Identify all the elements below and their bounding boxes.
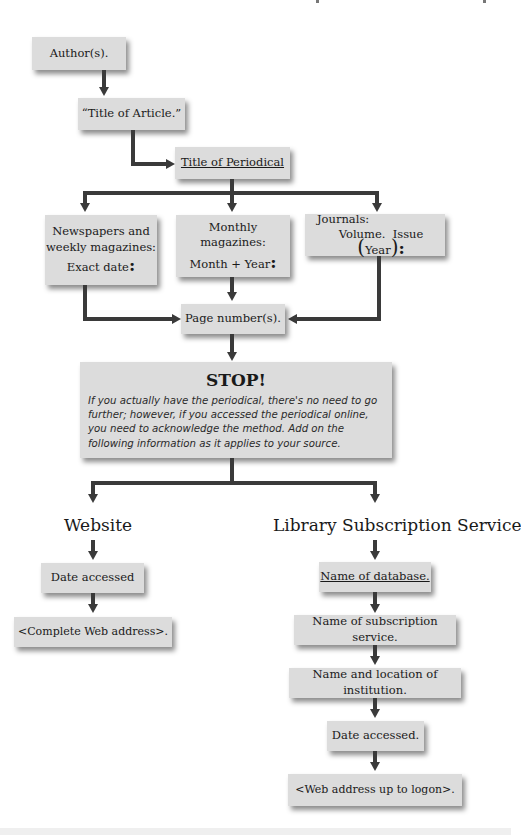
periodical-title-label: Title of Periodical [181, 155, 284, 171]
article-title-node: “Title of Article.” [78, 98, 185, 130]
journals-label: Journals: [317, 212, 369, 228]
library-step-label: Name of database. [320, 569, 429, 585]
website-step: <Complete Web address>. [14, 617, 172, 647]
arrow-down-icon [227, 292, 237, 301]
cropped-glyph-fragment [483, 0, 486, 3]
newspapers-label: Newspapers and [52, 224, 150, 240]
library-heading: Library Subscription Service [273, 515, 521, 535]
page-bottom-band [0, 828, 511, 835]
arrow-right-icon [172, 314, 181, 324]
library-step: Name of subscription service. [294, 615, 456, 645]
arrow-down-icon [227, 203, 237, 212]
arrow-down-icon [99, 87, 109, 96]
connector-line [102, 70, 106, 88]
connector-line [83, 191, 379, 195]
stop-notice: STOP! If you actually have the periodica… [80, 362, 392, 458]
connector-line [373, 481, 377, 495]
arrow-down-icon [370, 709, 380, 718]
newspapers-format: Exact date: [67, 260, 135, 276]
arrow-down-icon [370, 494, 380, 503]
stop-title: STOP! [206, 369, 266, 392]
website-step-label: <Complete Web address>. [18, 625, 168, 640]
library-step-label: <Web address up to logon>. [295, 783, 455, 798]
arrow-down-icon [88, 494, 98, 503]
page-numbers-node: Page number(s). [181, 304, 285, 334]
arrow-down-icon [370, 762, 380, 771]
library-step: <Web address up to logon>. [288, 774, 462, 806]
arrow-down-icon [370, 551, 380, 560]
connector-line [377, 256, 381, 321]
connector-line [83, 317, 173, 321]
author-node: Author(s). [32, 37, 126, 70]
library-step-label: Name and location of institution. [289, 667, 461, 698]
connector-line [91, 481, 377, 485]
arrow-down-icon [88, 604, 98, 613]
library-step: Date accessed. [327, 721, 424, 751]
library-step: Name of database. [319, 562, 431, 592]
website-step: Date accessed [41, 563, 144, 593]
arrow-down-icon [372, 203, 382, 212]
newspapers-node: Newspapers and weekly magazines: Exact d… [45, 215, 157, 285]
monthly-format: Month + Year: [189, 257, 276, 273]
monthly-magazines-node: Monthly magazines: Month + Year: [176, 215, 290, 277]
monthly-label: Monthly magazines: [176, 220, 290, 251]
journals-node: Journals: Volume. Issue (Year): [305, 214, 445, 256]
arrow-down-icon [88, 551, 98, 560]
connector-line [83, 285, 87, 321]
article-title-label: “Title of Article.” [82, 106, 181, 122]
library-step-label: Name of subscription service. [294, 614, 456, 645]
website-step-label: Date accessed [51, 570, 135, 586]
arrow-down-icon [227, 352, 237, 361]
author-label: Author(s). [50, 46, 109, 62]
journals-format: Volume. Issue (Year): [317, 227, 445, 258]
connector-line [91, 481, 95, 495]
cropped-glyph-fragment [316, 0, 319, 3]
library-step: Name and location of institution. [289, 668, 461, 698]
connector-line [230, 334, 234, 353]
arrow-right-icon [166, 159, 175, 169]
connector-line [230, 458, 234, 483]
library-step-label: Date accessed. [332, 728, 419, 744]
arrow-down-icon [80, 203, 90, 212]
arrow-down-icon [370, 656, 380, 665]
stop-body: If you actually have the periodical, the… [80, 394, 392, 451]
periodical-title-node: Title of Periodical [175, 147, 290, 179]
arrow-left-icon [288, 314, 297, 324]
connector-line [296, 317, 381, 321]
arrow-down-icon [370, 604, 380, 613]
page-numbers-label: Page number(s). [185, 311, 281, 327]
connector-line [131, 130, 135, 165]
connector-line [131, 162, 167, 166]
website-heading: Website [64, 515, 132, 535]
newspapers-label: weekly magazines: [46, 240, 156, 256]
